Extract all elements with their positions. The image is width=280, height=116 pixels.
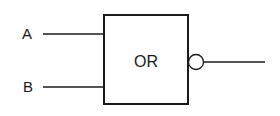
nor-gate-diagram: A B OR — [0, 0, 280, 116]
input-b-label: B — [23, 78, 33, 95]
gate-label: OR — [134, 53, 158, 70]
inversion-bubble-icon — [189, 55, 204, 70]
input-a-label: A — [22, 25, 32, 42]
